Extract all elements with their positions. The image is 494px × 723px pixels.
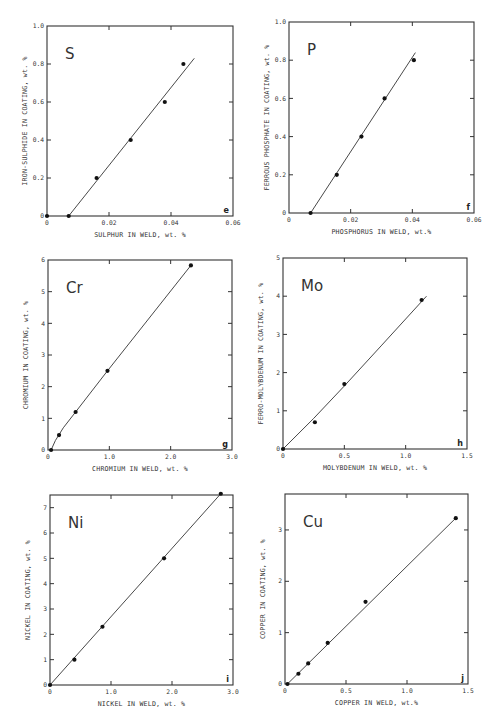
y-axis-label: FERRO-MOLYBDENUM IN COATING, wt. % [257, 283, 265, 425]
data-point [105, 369, 109, 373]
fit-line [311, 53, 416, 213]
y-tick-label: 6 [43, 529, 47, 536]
panel-label: h [457, 439, 463, 448]
panel-label: g [222, 440, 228, 449]
element-symbol: Mo [301, 277, 323, 295]
y-tick-label: 1 [278, 629, 282, 636]
x-axis-label: PHOSPHORUS IN WELD, wt.% [331, 228, 431, 236]
element-symbol: S [65, 45, 75, 63]
data-point [67, 214, 71, 218]
data-point [129, 138, 133, 142]
x-axis-label: MOLYBDENUM IN WELD, wt. % [323, 464, 427, 472]
data-point [72, 658, 76, 662]
y-tick-label: 5 [41, 288, 45, 295]
data-point [313, 420, 317, 424]
chart-panel-nickel: 01.02.03.001234567NICKEL IN WELD, wt. %N… [24, 492, 239, 708]
data-point [335, 173, 339, 177]
data-point [285, 682, 289, 686]
y-tick-label: 6 [41, 256, 45, 263]
y-tick-label: 1.0 [275, 18, 287, 25]
x-tick-label: 0.06 [466, 216, 481, 223]
panel-label: i [226, 675, 229, 684]
data-point [57, 433, 61, 437]
chart-panel-copper: 00.51.01.50123COPPER IN WELD, wt.%COPPER… [259, 494, 474, 707]
chart-panel-chromium: 01.02.03.00123456CHROMIUM IN WELD, wt. %… [22, 256, 238, 473]
fit-line [283, 296, 427, 449]
y-tick-label: 2 [41, 383, 45, 390]
y-tick-label: 3 [43, 605, 47, 612]
x-axis-label: COPPER IN WELD, wt.% [335, 699, 418, 707]
x-tick-label: 3.0 [226, 453, 238, 460]
x-tick-label: 1.5 [461, 452, 473, 459]
y-tick-label: 1.0 [33, 22, 45, 29]
data-point [100, 625, 104, 629]
data-point [45, 214, 49, 218]
panel-label: e [224, 206, 230, 215]
y-tick-label: 0 [278, 680, 282, 687]
fit-line [287, 518, 455, 684]
y-tick-label: 0 [40, 212, 44, 219]
y-tick-label: 1 [41, 415, 45, 422]
y-tick-label: 0.8 [275, 56, 287, 63]
data-point [296, 672, 300, 676]
data-point [308, 211, 312, 215]
data-point [189, 263, 193, 267]
x-tick-label: 0 [281, 452, 285, 459]
y-tick-label: 5 [43, 555, 47, 562]
y-tick-label: 4 [41, 320, 45, 327]
y-tick-label: 0.6 [275, 95, 287, 102]
data-point [359, 135, 363, 139]
y-axis-label: CHROMIUM IN COATING, wt. % [22, 301, 30, 409]
y-tick-label: 3 [278, 526, 282, 533]
x-tick-label: 3.0 [227, 688, 239, 695]
element-symbol: Cu [303, 513, 323, 531]
y-axis-label: FERROUS PHOSPHATE IN COATING, wt. % [263, 45, 271, 191]
y-tick-label: 1 [43, 656, 47, 663]
x-tick-label: 1.0 [105, 688, 117, 695]
data-point [74, 410, 78, 414]
x-tick-label: 0 [46, 453, 50, 460]
data-point [342, 382, 346, 386]
x-tick-label: 1.0 [400, 452, 412, 459]
y-tick-label: 0.2 [275, 171, 287, 178]
x-tick-label: 0.5 [339, 452, 351, 459]
data-point [48, 683, 52, 687]
y-axis-label: COPPER IN COATING, wt. % [259, 539, 267, 639]
figure-canvas: 00.020.040.0600.20.40.60.81.0SULPHUR IN … [0, 0, 494, 723]
y-axis-label: NICKEL IN COATING, wt. % [24, 540, 32, 640]
x-tick-label: 0 [287, 216, 291, 223]
chart-panel-molybdenum: 00.51.01.5012345MOLYBDENUM IN WELD, wt. … [257, 254, 473, 472]
y-tick-label: 2 [276, 369, 280, 376]
x-tick-label: 2.0 [166, 688, 178, 695]
x-tick-label: 0.02 [343, 216, 358, 223]
x-tick-label: 0.02 [101, 219, 116, 226]
y-tick-label: 0.2 [33, 174, 45, 181]
y-tick-label: 0 [41, 446, 45, 453]
data-point [382, 96, 386, 100]
x-tick-label: 1.0 [104, 453, 116, 460]
y-tick-label: 0 [282, 209, 286, 216]
panel-label: j [460, 674, 464, 683]
data-point [454, 516, 458, 520]
x-tick-label: 2.0 [165, 453, 177, 460]
plot-frame [47, 26, 233, 216]
y-tick-label: 1 [276, 407, 280, 414]
y-tick-label: 2 [43, 631, 47, 638]
x-tick-label: 1.0 [401, 687, 413, 694]
y-tick-label: 3 [41, 351, 45, 358]
data-point [49, 448, 53, 452]
x-tick-label: 0.5 [340, 687, 352, 694]
y-tick-label: 4 [276, 292, 280, 299]
x-tick-label: 0.06 [225, 219, 240, 226]
y-tick-label: 7 [43, 504, 47, 511]
data-point [412, 58, 416, 62]
x-axis-label: NICKEL IN WELD, wt. % [98, 700, 186, 708]
y-tick-label: 0 [43, 681, 47, 688]
fit-line [69, 58, 195, 216]
y-tick-label: 0.4 [275, 133, 287, 140]
data-point [162, 556, 166, 560]
y-tick-label: 2 [278, 577, 282, 584]
element-symbol: P [307, 41, 316, 59]
x-tick-label: 0 [283, 687, 287, 694]
y-tick-label: 5 [276, 254, 280, 261]
